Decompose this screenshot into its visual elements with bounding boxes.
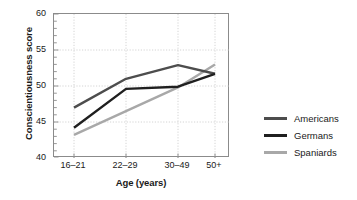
- data-series-lines: [74, 64, 215, 135]
- legend-item[interactable]: Germans: [264, 127, 357, 144]
- axis-tick-marks: [54, 14, 215, 158]
- x-tick-label: 50+: [184, 160, 244, 170]
- y-tick-label: 50: [28, 81, 46, 90]
- y-tick-label: 45: [28, 117, 46, 126]
- legend-item-label: Spaniards: [294, 148, 337, 158]
- y-axis-tick-labels: 6055504540: [26, 0, 46, 200]
- x-axis-title: Age (years): [53, 177, 229, 188]
- chart-legend: AmericansGermansSpaniards: [264, 110, 357, 161]
- plot-svg: [54, 14, 230, 158]
- x-tick-label: 16–21: [43, 160, 103, 170]
- x-tick-label: 22–29: [95, 160, 155, 170]
- legend-item[interactable]: Spaniards: [264, 144, 357, 161]
- legend-swatch-icon: [264, 134, 287, 137]
- legend-item-label: Germans: [294, 131, 333, 141]
- plot-area: [53, 13, 229, 157]
- legend-swatch-icon: [264, 151, 287, 154]
- series-line-germans: [74, 74, 215, 128]
- legend-item-label: Americans: [294, 114, 339, 124]
- x-axis-tick-labels: 16–2122–2930–4950+: [53, 160, 229, 174]
- legend-swatch-icon: [264, 117, 287, 120]
- legend-item[interactable]: Americans: [264, 110, 357, 127]
- y-tick-label: 60: [28, 9, 46, 18]
- line-chart-figure: Conscientiousness score 6055504540 16–21…: [0, 0, 357, 200]
- grid-lines: [54, 14, 230, 158]
- y-tick-label: 55: [28, 45, 46, 54]
